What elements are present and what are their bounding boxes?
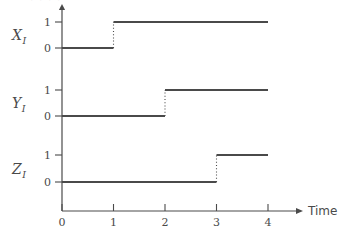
level-tick-label: 0 (44, 176, 51, 189)
signal-panel-z: 10ZI (11, 149, 268, 189)
timing-diagram-plot: 0123410XI10YI10ZITime (0, 0, 341, 242)
signal-panel-x: 10XI (11, 16, 268, 55)
series-label-x: XI (11, 27, 26, 46)
time-axis-arrow-icon (296, 208, 303, 214)
time-axis-title: Time (307, 204, 337, 218)
x-axis-tick-label: 0 (59, 216, 66, 229)
x-axis-tick-label: 3 (213, 216, 220, 229)
x-axis-tick-label: 2 (162, 216, 169, 229)
level-tick-label: 1 (44, 84, 51, 97)
level-tick-label: 0 (44, 42, 51, 55)
series-label-y: YI (12, 95, 26, 114)
timing-diagram-figure: · · · · 0123410XI10YI10ZITime (0, 0, 341, 242)
series-label-z: ZI (11, 161, 26, 180)
level-tick-label: 1 (44, 16, 51, 29)
x-axis-tick-label: 4 (265, 216, 272, 229)
signal-panel-y: 10YI (12, 84, 268, 123)
level-tick-label: 0 (44, 110, 51, 123)
value-axis-arrow-icon (59, 4, 65, 10)
level-tick-label: 1 (44, 149, 51, 162)
x-axis-tick-label: 1 (110, 216, 117, 229)
